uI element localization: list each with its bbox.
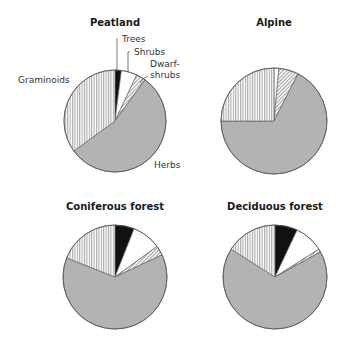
slice-label: Herbs bbox=[154, 160, 181, 170]
pie-chart-figure: PeatlandTreesShrubsDwarf-shrubsHerbsGram… bbox=[0, 0, 342, 342]
slice-label: Shrubs bbox=[134, 47, 166, 57]
chart-title: Coniferous forest bbox=[66, 201, 164, 212]
slice-label: Trees bbox=[121, 34, 146, 44]
pie-chart-coniferous-forest: Coniferous forest bbox=[63, 201, 167, 329]
slice-label: Dwarf- bbox=[150, 59, 179, 69]
slice-label: Graminoids bbox=[18, 75, 70, 85]
pie-chart-deciduous-forest: Deciduous forest bbox=[223, 201, 327, 329]
pie-chart-peatland: PeatlandTreesShrubsDwarf-shrubsHerbsGram… bbox=[18, 17, 181, 172]
chart-title: Deciduous forest bbox=[227, 201, 323, 212]
slice-graminoids bbox=[221, 68, 274, 121]
pie-chart-alpine: Alpine bbox=[221, 17, 327, 174]
chart-title: Peatland bbox=[90, 17, 140, 28]
chart-title: Alpine bbox=[256, 17, 292, 28]
leader-line bbox=[128, 52, 130, 72]
slice-label: shrubs bbox=[150, 70, 181, 80]
